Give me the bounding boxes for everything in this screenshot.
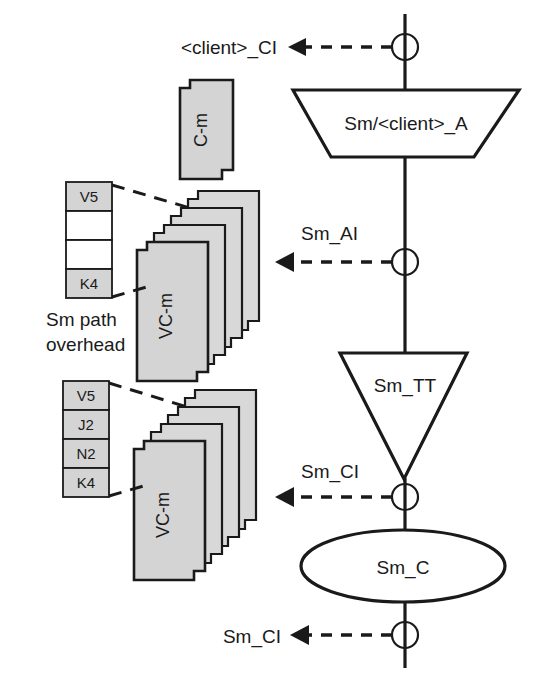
- node-connection[interactable]: Sm_C: [301, 530, 505, 602]
- node-connection-label: Sm_C: [377, 557, 430, 579]
- packet-c-m[interactable]: C-m: [180, 80, 233, 179]
- packet-c-m-label: C-m: [191, 113, 211, 147]
- signal-sm-ci-upper-arrowhead: [275, 487, 294, 507]
- overhead-upper-cell-1: [66, 211, 112, 240]
- signal-client-ci: <client>_CI: [181, 37, 392, 59]
- signal-sm-ci-upper-label: Sm_CI: [301, 461, 359, 483]
- signal-sm-ci-lower: Sm_CI: [223, 625, 392, 648]
- signal-sm-ci-lower-arrowhead: [290, 625, 309, 645]
- overhead-caption: Sm path overhead: [46, 309, 125, 355]
- packet-vc-m-lower-label: VC-m: [153, 492, 173, 538]
- signal-sm-ai: Sm_AI: [275, 223, 392, 272]
- signal-sm-ai-label: Sm_AI: [301, 223, 358, 245]
- overhead-caption-line1: Sm path: [46, 309, 117, 330]
- overhead-lower-cell-1-label: J2: [78, 416, 94, 433]
- diagram-svg: Sm/<client>_A Sm_TT Sm_C <client>_CI: [0, 0, 539, 679]
- diagram-canvas: Sm/<client>_A Sm_TT Sm_C <client>_CI: [0, 0, 539, 679]
- overhead-caption-line2: overhead: [46, 334, 125, 355]
- signal-sm-ci-lower-label: Sm_CI: [223, 626, 281, 648]
- packet-stack-vc-m-upper[interactable]: VC-m: [137, 191, 259, 381]
- overhead-lower-leader-top: [109, 383, 187, 407]
- signal-client-ci-label: <client>_CI: [181, 37, 277, 59]
- signal-sm-ai-arrowhead: [275, 252, 294, 272]
- overhead-lower-cell-2-label: N2: [76, 445, 95, 462]
- packet-stack-vc-m-lower[interactable]: VC-m: [134, 390, 256, 580]
- overhead-lower-cell-0-label: V5: [77, 387, 95, 404]
- node-adaptation-label: Sm/<client>_A: [344, 113, 468, 135]
- signal-client-ci-arrowhead: [288, 38, 306, 56]
- signal-sm-ci-upper: Sm_CI: [275, 461, 392, 507]
- node-termination-label: Sm_TT: [374, 375, 437, 397]
- overhead-lower-cell-3-label: K4: [77, 474, 95, 491]
- overhead-upper-cell-2: [66, 240, 112, 269]
- overhead-upper-leader-top: [112, 185, 190, 208]
- overhead-upper-cell-0-label: V5: [80, 188, 98, 205]
- node-adaptation[interactable]: Sm/<client>_A: [293, 90, 519, 157]
- packet-vc-m-upper-label: VC-m: [156, 293, 176, 339]
- overhead-upper-cell-3-label: K4: [80, 275, 98, 292]
